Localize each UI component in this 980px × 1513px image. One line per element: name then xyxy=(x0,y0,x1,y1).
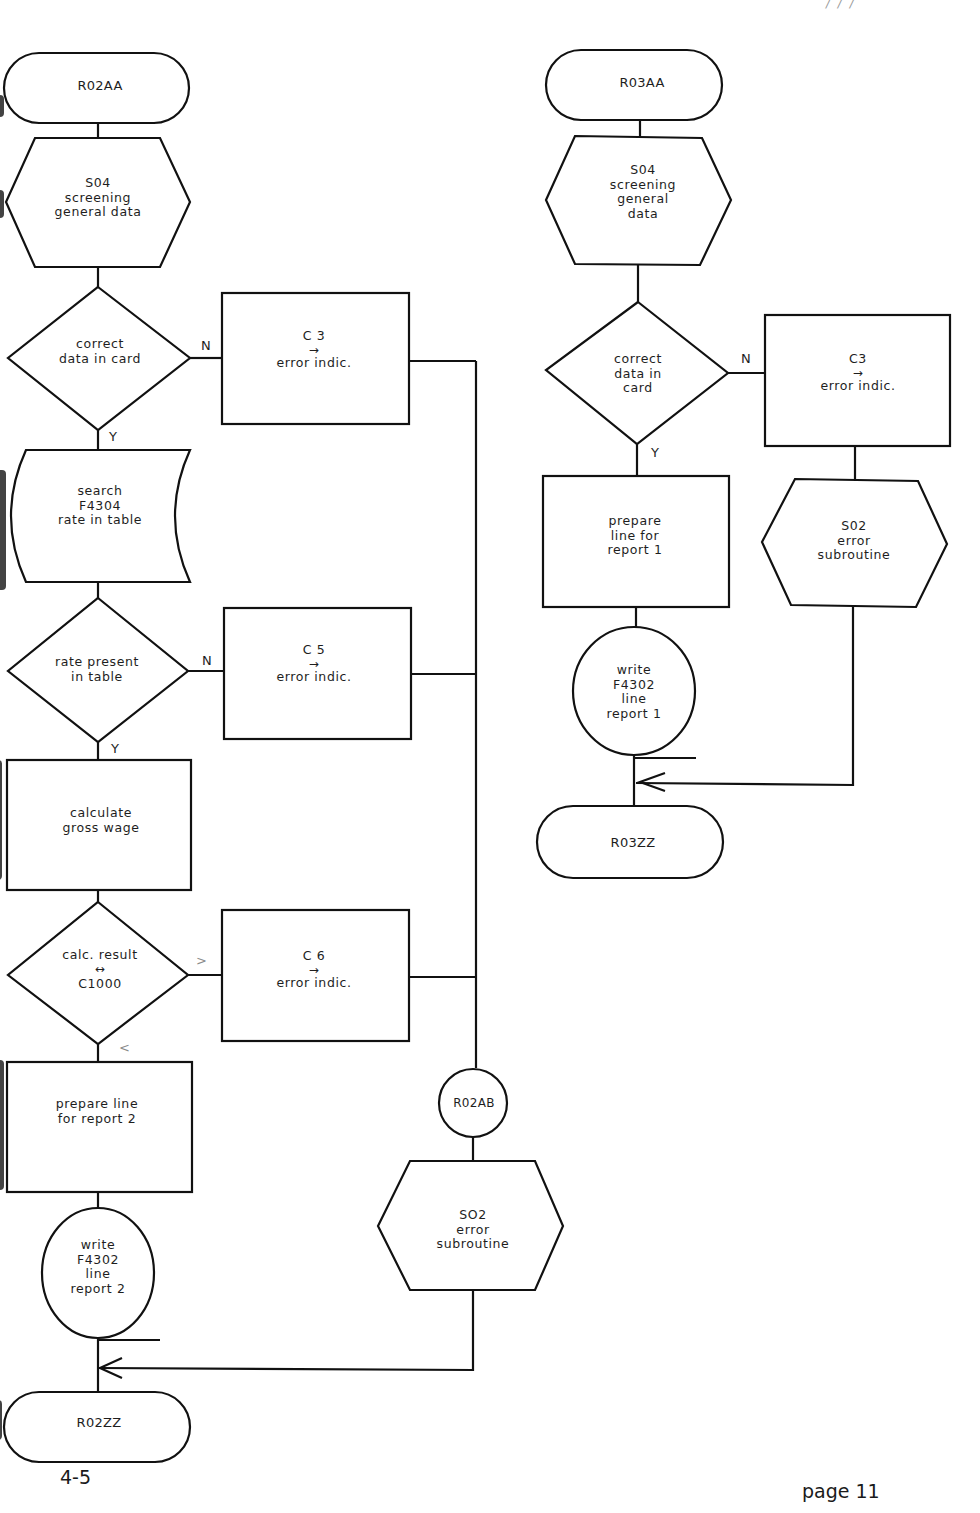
arrow-right-icon: → xyxy=(276,344,351,356)
r03-prepare-line-label: prepare line for report 1 xyxy=(608,514,663,558)
r02-decision-card-no-label: N xyxy=(201,338,211,353)
r02-decision-rate-label: rate present in table xyxy=(55,655,139,684)
r03-error-c3-label: C3 → error indic. xyxy=(820,352,895,393)
r02ab-connector-label: R02AB xyxy=(453,1096,495,1111)
r02-write-label: write F4302 line report 2 xyxy=(71,1238,126,1296)
r02-error-c6-label: C 6 → error indic. xyxy=(276,949,351,990)
r02-decision-rate-yes-label: Y xyxy=(111,741,119,756)
r03-error-subroutine-label: S02 error subroutine xyxy=(818,519,891,563)
corner-mark: / / / xyxy=(826,0,856,10)
r03-start-label: R03AA xyxy=(619,76,664,91)
r02-error-c3-label: C 3 → error indic. xyxy=(276,329,351,370)
r02-prepare-line-label: prepare line for report 2 xyxy=(56,1097,138,1126)
r02-prepare-line-box xyxy=(7,1062,192,1192)
arrow-right-icon: → xyxy=(820,367,895,379)
r02-decision-calc-less-label: < xyxy=(119,1040,130,1055)
r03-decision-card-no-label: N xyxy=(741,351,751,366)
r02-decision-calc-greater-label: > xyxy=(196,953,207,968)
r02-decision-calc-label: calc. result ↔ C1000 xyxy=(62,948,137,991)
r03-write-label: write F4302 line report 1 xyxy=(607,663,662,721)
figure-number: 4-5 xyxy=(60,1466,91,1488)
r02-decision-rate-no-label: N xyxy=(202,653,212,668)
r03-end-label: R03ZZ xyxy=(611,836,656,851)
r02-error-subroutine-label: SO2 error subroutine xyxy=(437,1208,510,1252)
page-number: page 11 xyxy=(802,1480,880,1502)
r02-screening-label: S04 screening general data xyxy=(55,176,142,220)
flow-r03-shapes xyxy=(537,50,950,878)
r03-decision-card-yes-label: Y xyxy=(651,445,659,460)
r02-end-label: R02ZZ xyxy=(77,1416,122,1431)
r02-search-label: search F4304 rate in table xyxy=(58,484,142,528)
r02-start-label: R02AA xyxy=(77,79,122,94)
r02-decision-card-label: correct data in card xyxy=(59,337,141,366)
r02-decision-card-yes-label: Y xyxy=(109,429,117,444)
flowchart-canvas xyxy=(0,0,980,1513)
r03-screening-label: S04 screening general data xyxy=(610,163,676,221)
r03-decision-card-label: correct data in card xyxy=(614,352,662,396)
arrow-right-icon: → xyxy=(276,964,351,976)
arrow-right-icon: → xyxy=(276,658,351,670)
compare-arrows-icon: ↔ xyxy=(62,963,137,975)
r02-error-c5-label: C 5 → error indic. xyxy=(276,643,351,684)
r02-calculate-label: calculate gross wage xyxy=(63,806,140,835)
